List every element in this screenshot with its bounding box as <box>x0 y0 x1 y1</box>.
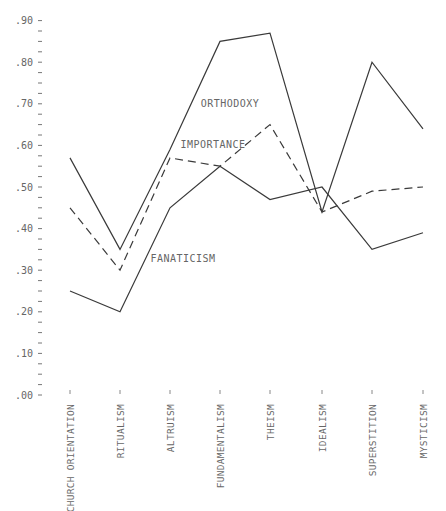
series-line-importance <box>70 125 423 271</box>
x-tick-label: IDEALISM <box>317 404 328 452</box>
series-label-importance: IMPORTANCE <box>180 139 245 150</box>
y-tick-label: .20 <box>15 306 33 317</box>
series-label-orthodoxy: ORTHODOXY <box>201 98 260 109</box>
x-tick-label: THEISM <box>265 404 276 440</box>
x-axis: CHURCH ORIENTATIONRITUALISMALTRUISMFUNDA… <box>65 390 429 511</box>
x-tick-label: RITUALISM <box>115 404 126 458</box>
y-axis: .00.10.20.30.40.50.60.70.80.90 <box>15 15 42 400</box>
y-tick-label: .40 <box>15 223 33 234</box>
y-tick-label: .60 <box>15 140 33 151</box>
y-tick-label: .50 <box>15 182 33 193</box>
series-line-fanaticism <box>70 166 423 312</box>
y-tick-label: .30 <box>15 265 33 276</box>
x-tick-label: MYSTICISM <box>418 404 429 458</box>
x-tick-label: SUPERSTITION <box>367 404 378 476</box>
y-tick-label: .90 <box>15 15 33 26</box>
y-tick-label: .70 <box>15 98 33 109</box>
y-tick-label: .80 <box>15 57 33 68</box>
y-tick-label: .00 <box>15 390 33 401</box>
x-tick-label: FUNDAMENTALISM <box>215 404 226 488</box>
series-line-orthodoxy <box>70 33 423 249</box>
x-tick-label: CHURCH ORIENTATION <box>65 404 76 511</box>
series-lines <box>70 33 423 312</box>
series-label-fanaticism: FANATICISM <box>150 253 215 264</box>
y-tick-label: .10 <box>15 348 33 359</box>
x-tick-label: ALTRUISM <box>165 404 176 452</box>
line-chart: .00.10.20.30.40.50.60.70.80.90 CHURCH OR… <box>0 0 446 511</box>
